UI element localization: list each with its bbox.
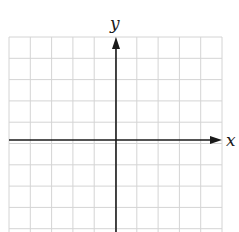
y-axis-label: y: [109, 13, 120, 33]
x-axis-arrowhead-icon: [210, 136, 222, 144]
y-axis-arrowhead-icon: [112, 37, 120, 49]
x-axis-label: x: [226, 130, 236, 150]
coordinate-plane: x y: [0, 0, 239, 232]
